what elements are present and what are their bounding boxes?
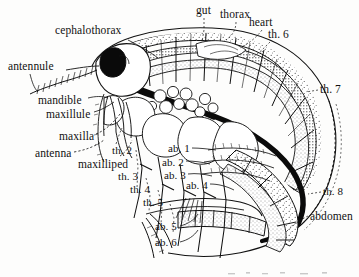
crustacean-anatomy-drawing	[0, 0, 359, 277]
label-abdominal-segment-1: ab. 1	[168, 143, 190, 155]
plate-edge-marks	[228, 272, 327, 274]
label-abdominal-segment-2: ab. 2	[162, 157, 184, 169]
label-thoracic-segment-3: th. 3	[118, 171, 138, 183]
label-abdominal-segment-3: ab. 3	[164, 170, 186, 182]
label-thoracic-segment-7: th. 7	[320, 84, 341, 96]
label-thoracic-segment-6: th. 6	[268, 29, 289, 41]
label-thoracic-segment-5: th. 5	[143, 197, 163, 209]
label-maxilla: maxilla	[59, 131, 94, 143]
label-abdominal-segment-4: ab. 4	[186, 180, 208, 192]
antenna-appendage	[93, 94, 108, 162]
label-cephalothorax: cephalothorax	[55, 25, 121, 37]
label-gut: gut	[196, 5, 211, 17]
label-maxilliped: maxilliped	[78, 159, 128, 171]
label-thoracic-segment-8: th. 8	[323, 186, 343, 198]
label-mandible: mandible	[38, 95, 82, 107]
label-abdominal-segment-5: ab. 5	[155, 221, 177, 233]
label-heart: heart	[249, 17, 272, 29]
label-antenna: antenna	[35, 148, 71, 160]
label-abdominal-segment-6: ab. 6	[155, 237, 177, 249]
head-region	[96, 44, 151, 97]
label-maxillule: maxillule	[46, 109, 90, 121]
label-abdomen: abdomen	[310, 211, 353, 223]
label-thorax: thorax	[220, 9, 250, 21]
anatomical-figure: cephalothorax gut thorax heart th. 6 th.…	[0, 0, 359, 277]
label-thoracic-segment-4: th. 4	[130, 184, 150, 196]
label-thoracic-segment-2: th. 2	[112, 145, 132, 157]
label-antennule: antennule	[8, 61, 54, 73]
